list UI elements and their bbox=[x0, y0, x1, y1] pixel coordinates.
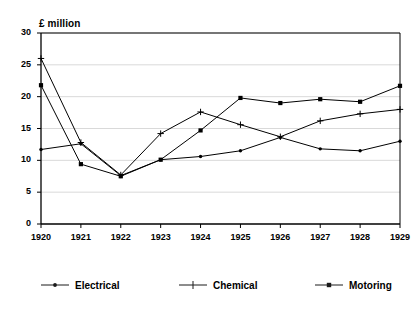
marker-square bbox=[79, 162, 83, 166]
y-axis-tick-label: 0 bbox=[13, 218, 31, 228]
x-axis-tick-label: 1926 bbox=[263, 232, 297, 242]
marker-square bbox=[39, 83, 43, 87]
x-axis-tick-label: 1928 bbox=[343, 232, 377, 242]
x-axis-tick-label: 1922 bbox=[104, 232, 138, 242]
marker-square bbox=[238, 96, 242, 100]
legend-item-motoring[interactable]: Motoring bbox=[314, 276, 392, 294]
y-axis-tick-label: 15 bbox=[13, 123, 31, 133]
marker-dot bbox=[239, 149, 242, 152]
x-axis-tick-label: 1923 bbox=[144, 232, 178, 242]
y-axis-tick-label: 30 bbox=[13, 27, 31, 37]
series-line-electrical bbox=[41, 137, 400, 175]
marker-dot bbox=[319, 147, 322, 150]
x-axis-tick-label: 1924 bbox=[184, 232, 218, 242]
series-line-chemical bbox=[41, 58, 400, 175]
marker-square bbox=[159, 158, 163, 162]
marker-square bbox=[318, 97, 322, 101]
legend-item-chemical[interactable]: Chemical bbox=[178, 276, 257, 294]
x-axis-tick-label: 1920 bbox=[24, 232, 58, 242]
series-line-motoring bbox=[41, 85, 400, 176]
x-axis-tick-label: 1929 bbox=[383, 232, 416, 242]
marker-dot bbox=[199, 155, 202, 158]
marker-dot bbox=[39, 148, 42, 151]
marker-square bbox=[198, 128, 202, 132]
marker-square bbox=[398, 84, 402, 88]
marker-square bbox=[358, 100, 362, 104]
x-axis-tick-label: 1925 bbox=[223, 232, 257, 242]
legend-label-electrical: Electrical bbox=[75, 280, 119, 291]
legend-item-electrical[interactable]: Electrical bbox=[40, 276, 119, 294]
legend-label-chemical: Chemical bbox=[213, 280, 257, 291]
line-chart: £ million 051015202530 19201921192219231… bbox=[0, 0, 416, 331]
legend-marker-plus-icon bbox=[178, 279, 208, 291]
y-axis-tick-label: 5 bbox=[13, 186, 31, 196]
marker-dot bbox=[398, 140, 401, 143]
marker-square bbox=[119, 174, 123, 178]
marker-dot bbox=[358, 149, 361, 152]
legend-marker-square-icon bbox=[314, 279, 344, 291]
y-axis-tick-label: 20 bbox=[13, 91, 31, 101]
legend-label-motoring: Motoring bbox=[349, 280, 392, 291]
x-axis-tick-label: 1927 bbox=[303, 232, 337, 242]
y-axis-tick-label: 10 bbox=[13, 154, 31, 164]
marker-square bbox=[278, 101, 282, 105]
chart-legend: Electrical Chemical Motoring bbox=[0, 276, 416, 296]
y-axis-tick-label: 25 bbox=[13, 59, 31, 69]
legend-marker-dot-icon bbox=[40, 279, 70, 291]
x-axis-tick-label: 1921 bbox=[64, 232, 98, 242]
